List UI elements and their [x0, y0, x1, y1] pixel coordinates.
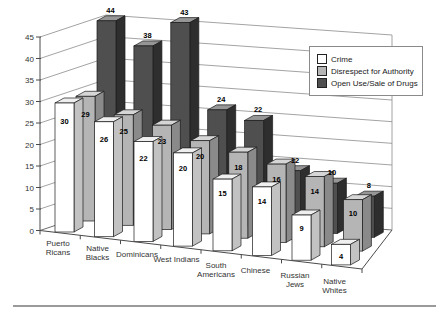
bar-side-face	[232, 174, 241, 251]
legend-item-disrespect: Disrespect for Authority	[317, 66, 416, 76]
category-label-0: PuertoRicans	[46, 239, 71, 257]
legend-swatch-crime	[317, 54, 327, 64]
data-label-s0-c6: 9	[299, 224, 303, 233]
data-label-s1-c0: 29	[81, 110, 89, 119]
data-label-s0-c1: 26	[100, 135, 108, 144]
data-label-s2-c2: 43	[180, 8, 188, 17]
bar-s0-c2	[134, 137, 162, 242]
data-label-s1-c1: 25	[120, 127, 128, 136]
y-tick-label-25: 25	[25, 119, 34, 128]
bar-s0-c5	[253, 182, 281, 256]
y-tick-label-5: 5	[30, 205, 35, 214]
data-label-s0-c3: 20	[179, 164, 187, 173]
data-label-s1-c5: 16	[272, 175, 280, 184]
bar-s0-c1	[95, 117, 123, 237]
bar-s0-c7	[332, 239, 360, 265]
gridline-45	[40, 15, 392, 37]
y-tick-label-35: 35	[25, 76, 34, 85]
bar-side-face	[362, 195, 371, 251]
bar-s0-c6	[292, 210, 320, 260]
data-label-s1-c4: 18	[234, 163, 242, 172]
data-label-s1-c7: 10	[349, 209, 357, 218]
data-label-s0-c5: 14	[258, 197, 267, 206]
y-tick-label-30: 30	[25, 98, 34, 107]
data-label-s2-c4: 22	[254, 105, 262, 114]
data-label-s1-c6: 14	[311, 187, 320, 196]
data-label-s0-c2: 22	[139, 154, 147, 163]
bar-s0-c3	[174, 148, 202, 246]
bar-s0-c0	[55, 98, 83, 232]
data-label-s2-c5: 12	[291, 156, 299, 165]
legend-label-drugs: Open Use/Sale of Drugs	[331, 79, 418, 88]
legend-label-disrespect: Disrespect for Authority	[331, 67, 414, 76]
bottom-divider-rule	[13, 305, 436, 307]
data-label-s0-c4: 15	[218, 189, 226, 198]
data-label-s1-c3: 20	[196, 152, 204, 161]
category-label-7: NativeWhites	[322, 277, 346, 295]
bar-side-face	[324, 172, 333, 247]
bar-front-face	[292, 215, 311, 260]
category-label-2: Dominicans	[116, 250, 158, 259]
bar-side-face	[153, 137, 162, 242]
data-label-s2-c1: 38	[143, 31, 151, 40]
bar-side-face	[193, 148, 202, 246]
category-label-1: NativeBlacks	[86, 244, 110, 262]
bar-side-face	[374, 191, 383, 237]
category-label-5: Chinese	[241, 266, 271, 275]
data-label-s0-c0: 30	[60, 117, 68, 126]
y-axis-labels: 051015202530354045	[25, 33, 41, 236]
y-tick-label-15: 15	[25, 162, 34, 171]
chart-figure: 051015202530354045PuertoRicansNativeBlac…	[0, 0, 448, 314]
bar-side-face	[311, 210, 320, 260]
y-tick-label-10: 10	[25, 184, 34, 193]
legend-item-drugs: Open Use/Sale of Drugs	[317, 78, 416, 88]
legend-item-crime: Crime	[317, 54, 416, 64]
category-label-3: West Indians	[153, 255, 199, 264]
legend-swatch-drugs	[317, 78, 327, 88]
data-label-s2-c7: 8	[367, 181, 371, 190]
data-label-s2-c3: 24	[217, 95, 226, 104]
category-label-6: RussianJews	[281, 271, 310, 289]
data-label-s2-c6: 10	[328, 168, 336, 177]
bar-side-face	[272, 182, 281, 256]
y-tick-label-20: 20	[25, 141, 34, 150]
data-label-s1-c2: 23	[158, 137, 166, 146]
legend-label-crime: Crime	[331, 55, 352, 64]
bar-s0-c4	[213, 174, 241, 251]
y-tick-label-0: 0	[30, 227, 35, 236]
chart-legend: Crime Disrespect for Authority Open Use/…	[309, 46, 423, 96]
data-label-s2-c0: 44	[106, 6, 115, 15]
legend-swatch-disrespect	[317, 66, 327, 76]
y-tick-label-40: 40	[25, 55, 34, 64]
category-label-4: SouthAmericans	[197, 261, 235, 279]
y-tick-label-45: 45	[25, 33, 34, 42]
